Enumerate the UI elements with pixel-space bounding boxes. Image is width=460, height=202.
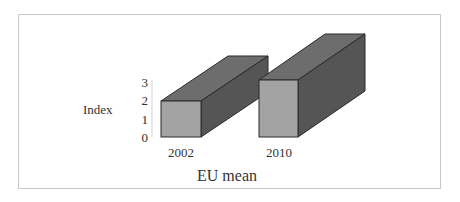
x-tick-2010: 2010 bbox=[266, 145, 292, 160]
y-axis-label: Index bbox=[83, 102, 113, 117]
y-tick-2: 2 bbox=[142, 93, 149, 108]
bar-2002 bbox=[161, 56, 268, 137]
y-tick-3: 3 bbox=[142, 75, 149, 90]
y-tick-1: 1 bbox=[142, 112, 149, 127]
y-tick-0: 0 bbox=[142, 130, 149, 145]
bar-chart-3d: 3 2 1 0 Index 2002 2010 EU mean bbox=[0, 0, 460, 202]
x-tick-2002: 2002 bbox=[168, 145, 194, 160]
chart-title: EU mean bbox=[197, 167, 257, 184]
bar-2010 bbox=[259, 34, 365, 137]
